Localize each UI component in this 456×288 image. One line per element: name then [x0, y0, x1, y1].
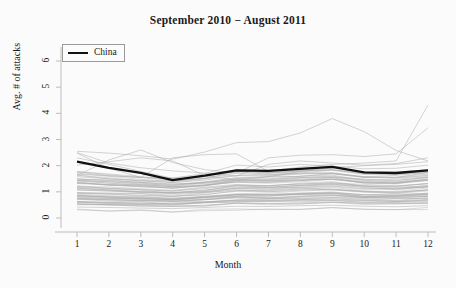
y-tick-6: 6 — [41, 54, 51, 66]
x-tick-6: 6 — [227, 239, 247, 249]
x-tick-11: 11 — [386, 239, 406, 249]
x-tick-8: 8 — [290, 239, 310, 249]
series-line — [77, 105, 428, 177]
legend-label-china: China — [94, 48, 117, 58]
y-tick-5: 5 — [41, 80, 51, 92]
background-series-lines — [77, 105, 428, 212]
legend-line-swatch-china — [68, 52, 88, 54]
x-tick-4: 4 — [163, 239, 183, 249]
x-tick-10: 10 — [354, 239, 374, 249]
chart-legend: China — [62, 44, 125, 62]
y-tick-3: 3 — [41, 133, 51, 145]
y-axis-label: Avg. # of attacks — [11, 97, 22, 111]
y-tick-0: 0 — [41, 211, 51, 223]
x-tick-2: 2 — [99, 239, 119, 249]
x-tick-12: 12 — [418, 239, 438, 249]
x-tick-1: 1 — [67, 239, 87, 249]
chart-figure: September 2010 − August 2011 Avg. # of a… — [0, 0, 456, 288]
x-tick-9: 9 — [322, 239, 342, 249]
x-tick-7: 7 — [258, 239, 278, 249]
y-tick-1: 1 — [41, 185, 51, 197]
y-tick-4: 4 — [41, 106, 51, 118]
x-axis-label: Month — [0, 259, 456, 270]
x-tick-3: 3 — [131, 239, 151, 249]
y-tick-2: 2 — [41, 159, 51, 171]
x-tick-5: 5 — [195, 239, 215, 249]
series-line — [77, 119, 428, 161]
